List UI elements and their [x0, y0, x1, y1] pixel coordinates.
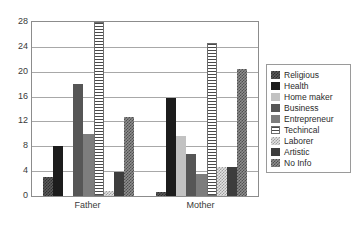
legend-item-label: Home maker [284, 92, 333, 102]
bar [156, 192, 166, 196]
legend-item: Health [271, 80, 347, 91]
legend-swatch-icon [271, 115, 280, 123]
legend-swatch-icon [271, 126, 280, 134]
x-axis-tick-label: Mother [144, 200, 257, 210]
y-axis-tick-label: 20 [18, 67, 28, 76]
legend-item: Entrepreneur [271, 113, 347, 124]
bar-series-container [32, 22, 258, 196]
legend-swatch-icon [271, 148, 280, 156]
y-axis-tick-label: 12 [18, 116, 28, 125]
bar [83, 134, 93, 196]
x-axis-labels: FatherMother [31, 200, 259, 214]
legend-item-label: No Info [284, 158, 311, 168]
bar [227, 167, 237, 196]
legend-swatch-icon [271, 104, 280, 112]
y-axis-tick-label: 4 [23, 166, 28, 175]
legend-item-label: Entrepreneur [284, 114, 334, 124]
bar [53, 146, 63, 196]
bar [186, 154, 196, 196]
bar [207, 43, 217, 196]
bar [217, 167, 227, 196]
legend-swatch-icon [271, 82, 280, 90]
y-axis-tick-label: 24 [18, 42, 28, 51]
y-axis-tick-label: 0 [23, 191, 28, 200]
legend-swatch-icon [271, 71, 280, 79]
legend-item: Business [271, 102, 347, 113]
bar [43, 177, 53, 196]
bar [124, 117, 134, 196]
legend-item-label: Techincal [284, 125, 319, 135]
legend-item: No Info [271, 157, 347, 168]
legend-swatch-icon [271, 159, 280, 167]
legend-item-label: Religious [284, 70, 319, 80]
y-axis-tick-label: 8 [23, 141, 28, 150]
y-axis-labels: 0481216202428 [4, 21, 28, 197]
bar [176, 136, 186, 196]
legend-item-label: Laborer [284, 136, 313, 146]
bar [237, 69, 247, 196]
legend-item: Techincal [271, 124, 347, 135]
y-axis-tick-label: 28 [18, 17, 28, 26]
legend-item: Home maker [271, 91, 347, 102]
legend-item: Religious [271, 69, 347, 80]
bar [114, 172, 124, 196]
bar [94, 22, 104, 196]
legend-swatch-icon [271, 137, 280, 145]
legend-item: Laborer [271, 135, 347, 146]
legend-item: Artistic [271, 146, 347, 157]
legend-item-label: Artistic [284, 147, 310, 157]
legend-item-label: Health [284, 81, 309, 91]
y-axis-tick-label: 16 [18, 92, 28, 101]
bar [104, 191, 114, 196]
bar [196, 174, 206, 196]
legend-item-label: Business [284, 103, 319, 113]
bar [73, 84, 83, 196]
chart-legend: ReligiousHealthHome makerBusinessEntrepr… [266, 64, 351, 173]
legend-swatch-icon [271, 93, 280, 101]
bar [166, 98, 176, 196]
x-axis-tick-label: Father [31, 200, 144, 210]
bar-chart: 0481216202428 FatherMother ReligiousHeal… [0, 0, 354, 244]
